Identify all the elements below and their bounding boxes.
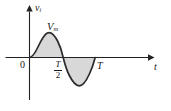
sine-waveform-figure: vi Vm 0 T 2 T t [0,0,171,111]
half-period-label: T 2 [51,60,65,80]
period-label: T [97,61,103,71]
amplitude-label-subscript: m [53,25,58,32]
amplitude-label: Vm [47,22,58,33]
half-period-denominator: 2 [54,71,61,80]
y-axis-label-subscript: i [39,6,41,13]
y-axis-arrowhead [26,5,32,12]
x-axis-arrowhead [148,54,155,60]
half-period-numerator: T [54,60,61,69]
y-axis-label: vi [35,3,41,14]
origin-label: 0 [20,60,25,70]
half-period-fraction: T 2 [54,60,61,80]
waveform-plot [0,0,171,111]
x-axis-label: t [154,62,157,72]
